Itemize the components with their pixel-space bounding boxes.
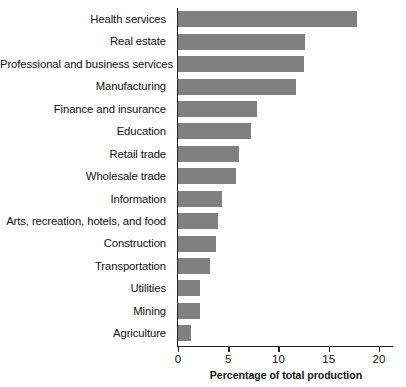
bar-row bbox=[178, 75, 396, 97]
x-tick bbox=[228, 346, 229, 352]
category-label: Utilities bbox=[0, 277, 172, 299]
category-label: Transportation bbox=[0, 255, 172, 277]
bar-row bbox=[178, 255, 396, 277]
x-tick-label: 0 bbox=[175, 353, 181, 365]
bar bbox=[178, 258, 210, 274]
category-axis-labels: Health servicesReal estateProfessional a… bbox=[0, 8, 172, 345]
bar-row bbox=[178, 120, 396, 142]
category-label: Professional and business services bbox=[0, 53, 172, 75]
bar bbox=[178, 146, 239, 162]
bar bbox=[178, 325, 191, 341]
bar-row bbox=[178, 210, 396, 232]
bar bbox=[178, 56, 304, 72]
category-label: Information bbox=[0, 188, 172, 210]
bar bbox=[178, 79, 296, 95]
bar-chart: Health servicesReal estateProfessional a… bbox=[0, 0, 406, 387]
bar-row bbox=[178, 143, 396, 165]
bar bbox=[178, 101, 257, 117]
y-axis-line bbox=[177, 8, 178, 346]
category-label: Health services bbox=[0, 8, 172, 30]
bar bbox=[178, 213, 218, 229]
x-axis-title: Percentage of total production bbox=[178, 369, 394, 381]
bar-row bbox=[178, 277, 396, 299]
bar-row bbox=[178, 165, 396, 187]
category-label: Real estate bbox=[0, 30, 172, 52]
bar bbox=[178, 34, 305, 50]
category-label: Arts, recreation, hotels, and food bbox=[0, 210, 172, 232]
bar-series bbox=[178, 8, 396, 345]
x-tick-label: 15 bbox=[322, 353, 335, 365]
plot-area bbox=[178, 8, 396, 346]
bar-row bbox=[178, 30, 396, 52]
category-label: Construction bbox=[0, 232, 172, 254]
bar-row bbox=[178, 188, 396, 210]
x-tick bbox=[329, 346, 330, 352]
category-label: Agriculture bbox=[0, 322, 172, 344]
bar bbox=[178, 280, 200, 296]
bar-row bbox=[178, 8, 396, 30]
bar bbox=[178, 11, 357, 27]
bar-row bbox=[178, 322, 396, 344]
x-tick-label: 20 bbox=[373, 353, 386, 365]
x-tick-label: 5 bbox=[225, 353, 231, 365]
bar bbox=[178, 303, 200, 319]
category-label: Retail trade bbox=[0, 143, 172, 165]
x-tick bbox=[278, 346, 279, 352]
category-label: Finance and insurance bbox=[0, 98, 172, 120]
category-label: Manufacturing bbox=[0, 75, 172, 97]
bar bbox=[178, 168, 236, 184]
x-tick bbox=[178, 346, 179, 352]
x-axis-line bbox=[177, 346, 393, 347]
bar-row bbox=[178, 232, 396, 254]
bar-row bbox=[178, 300, 396, 322]
x-tick bbox=[379, 346, 380, 352]
x-tick-label: 10 bbox=[272, 353, 285, 365]
bar-row bbox=[178, 53, 396, 75]
bar-row bbox=[178, 98, 396, 120]
bar bbox=[178, 123, 251, 139]
category-label: Mining bbox=[0, 300, 172, 322]
bar bbox=[178, 191, 222, 207]
category-label: Education bbox=[0, 120, 172, 142]
category-label: Wholesale trade bbox=[0, 165, 172, 187]
bar bbox=[178, 236, 216, 252]
